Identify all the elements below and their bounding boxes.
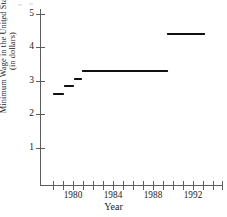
x-tick-label-1980: 1980 [53, 190, 93, 200]
y-tick-5 [36, 14, 45, 15]
x-tick-1978 [53, 181, 54, 190]
x-tick-label-1992: 1992 [173, 190, 213, 200]
y-tick-label-4-wrap: 4 [20, 42, 34, 52]
x-tick-1983 [103, 181, 104, 190]
x-tick-1986 [133, 181, 134, 190]
y-tick-label-5-wrap: 5 [20, 9, 34, 19]
x-tick-1991 [183, 181, 184, 190]
x-tick-1984 [113, 181, 114, 190]
x-tick-1988 [153, 181, 154, 190]
y-axis-title-line2: (in dollars) [9, 32, 18, 70]
x-tick-label-1988: 1988 [133, 190, 173, 200]
step-segment-1978 [53, 93, 64, 96]
y-tick-label-4: 4 [21, 42, 34, 51]
y-tick-label-1: 1 [21, 143, 34, 152]
step-segment-1980 [74, 78, 82, 81]
minimum-wage-step-chart: Minimum Wage in the United States (in do… [0, 0, 227, 217]
y-tick-2 [36, 114, 45, 115]
step-segment-1991-1995 [167, 33, 205, 36]
x-tick-1979 [63, 181, 64, 190]
y-axis-line [40, 9, 41, 186]
y-tick-label-2-wrap: 2 [20, 109, 34, 119]
x-tick-1982 [93, 181, 94, 190]
x-tick-1995 [222, 181, 223, 190]
x-tick-1994 [213, 181, 214, 190]
step-segment-1979 [64, 85, 74, 88]
y-tick-3 [36, 81, 45, 82]
x-axis-line [40, 185, 223, 186]
x-tick-1993 [203, 181, 204, 190]
x-tick-1980 [73, 181, 74, 190]
x-axis-title: Year [0, 201, 227, 212]
y-axis-title: Minimum Wage in the United States (in do… [0, 0, 20, 136]
step-segment-1981-1990 [82, 70, 168, 73]
x-tick-1990 [173, 181, 174, 190]
y-tick-label-2: 2 [21, 109, 34, 118]
y-tick-label-5: 5 [21, 9, 34, 18]
y-tick-1 [36, 148, 45, 149]
x-tick-label-1984: 1984 [93, 190, 133, 200]
x-tick-1987 [143, 181, 144, 190]
y-tick-label-3-wrap: 3 [20, 76, 34, 86]
x-tick-1981 [83, 181, 84, 190]
x-tick-1985 [123, 181, 124, 190]
x-tick-1992 [193, 181, 194, 190]
y-tick-4 [36, 47, 45, 48]
scan-speck [29, 3, 33, 5]
y-tick-label-1-wrap: 1 [20, 143, 34, 153]
y-tick-label-3: 3 [21, 76, 34, 85]
x-tick-1989 [163, 181, 164, 190]
